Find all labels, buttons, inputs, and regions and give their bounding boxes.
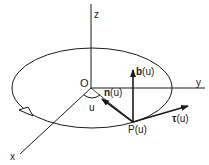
normal-vector — [102, 99, 133, 122]
frenet-frame-diagram: z y x O u P(u) b(u) n(u) τ(u) — [0, 0, 209, 165]
x-axis — [20, 88, 91, 154]
z-axis-label: z — [94, 9, 99, 20]
angle-arc — [84, 95, 100, 98]
point-label: P(u) — [128, 124, 147, 135]
normal-label: n(u) — [104, 87, 122, 98]
angle-label: u — [89, 102, 95, 113]
origin-label: O — [80, 77, 89, 89]
binormal-label: b(u) — [136, 66, 154, 77]
tangent-label: τ(u) — [172, 113, 189, 124]
x-axis-label: x — [10, 151, 15, 162]
direction-arrow-icon — [19, 107, 33, 116]
y-axis-label: y — [196, 77, 201, 88]
